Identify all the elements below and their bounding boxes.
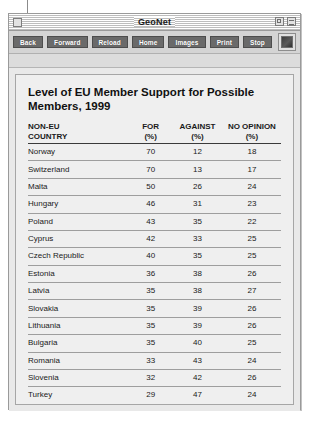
page-content-area: Level of EU Member Support for Possible …: [9, 68, 300, 411]
cell-against: 38: [172, 265, 223, 282]
table-row: Slovenia324226: [28, 369, 281, 386]
cell-for: 46: [129, 196, 172, 213]
browser-toolbar: Back Forward Reload Home Images Print St…: [9, 31, 300, 54]
reload-button[interactable]: Reload: [92, 36, 128, 48]
cell-country: Lithuania: [28, 317, 129, 334]
cell-against: 35: [172, 248, 223, 265]
home-button[interactable]: Home: [132, 36, 165, 48]
cell-for: 35: [129, 335, 172, 352]
cell-for: 29: [129, 387, 172, 404]
cell-no-opinion: 24: [223, 352, 281, 369]
cell-country: Poland: [28, 213, 129, 230]
table-row: Cyprus423325: [28, 230, 281, 247]
browser-logo-glyph: [281, 36, 293, 48]
cell-for: 43: [129, 213, 172, 230]
cell-for: 33: [129, 352, 172, 369]
cell-against: 33: [172, 230, 223, 247]
zoom-box-icon[interactable]: [275, 17, 284, 26]
cell-no-opinion: 26: [223, 300, 281, 317]
table-row: Poland433522: [28, 213, 281, 230]
cell-against: 38: [172, 283, 223, 300]
cell-no-opinion: 25: [223, 230, 281, 247]
cell-against: 40: [172, 335, 223, 352]
cell-country: Hungary: [28, 196, 129, 213]
titlebar-right-controls: [275, 17, 296, 26]
forward-button[interactable]: Forward: [47, 36, 87, 48]
cell-country: Bulgaria: [28, 335, 129, 352]
cell-against: 26: [172, 178, 223, 195]
table-row: Bulgaria354025: [28, 335, 281, 352]
cell-country: Slovakia: [28, 300, 129, 317]
cell-for: 50: [129, 178, 172, 195]
cell-no-opinion: 25: [223, 248, 281, 265]
cell-no-opinion: 27: [223, 283, 281, 300]
table-row: Hungary463123: [28, 196, 281, 213]
cell-country: Switzerland: [28, 161, 129, 178]
cell-no-opinion: 24: [223, 387, 281, 404]
cell-against: 39: [172, 300, 223, 317]
page-title: Level of EU Member Support for Possible …: [28, 85, 281, 113]
cell-no-opinion: 26: [223, 265, 281, 282]
table-row: Norway701218: [28, 144, 281, 161]
cell-no-opinion: 17: [223, 161, 281, 178]
cell-against: 47: [172, 387, 223, 404]
column-header-country: NON-EU COUNTRY: [28, 122, 129, 144]
cell-for: 36: [129, 265, 172, 282]
table-row: Czech Republic403525: [28, 248, 281, 265]
window-title-text: GeoNet: [134, 17, 175, 27]
cell-for: 70: [129, 144, 172, 161]
table-row: Estonia363826: [28, 265, 281, 282]
window-title: GeoNet: [9, 14, 300, 30]
cell-country: Slovenia: [28, 369, 129, 386]
cell-against: 43: [172, 352, 223, 369]
cell-country: Estonia: [28, 265, 129, 282]
cell-for: 35: [129, 300, 172, 317]
cell-no-opinion: 23: [223, 196, 281, 213]
cell-country: Czech Republic: [28, 248, 129, 265]
cell-for: 35: [129, 283, 172, 300]
column-header-for: FOR (%): [129, 122, 172, 144]
browser-logo-icon[interactable]: [278, 33, 296, 51]
window-titlebar[interactable]: GeoNet: [9, 14, 300, 31]
cell-no-opinion: 26: [223, 317, 281, 334]
cell-against: 39: [172, 317, 223, 334]
cell-no-opinion: 25: [223, 335, 281, 352]
cell-no-opinion: 22: [223, 213, 281, 230]
table-row: Slovakia353926: [28, 300, 281, 317]
cell-country: Turkey: [28, 387, 129, 404]
table-row: Turkey294724: [28, 387, 281, 404]
table-row: Switzerland701317: [28, 161, 281, 178]
table-header-row: NON-EU COUNTRY FOR (%) AGAINST (%) NO OP…: [28, 122, 281, 144]
images-button[interactable]: Images: [168, 36, 205, 48]
collapse-box-icon[interactable]: [287, 17, 296, 26]
cell-for: 35: [129, 317, 172, 334]
cell-country: Malta: [28, 178, 129, 195]
article-panel: Level of EU Member Support for Possible …: [15, 74, 294, 405]
cell-against: 12: [172, 144, 223, 161]
table-row: Malta502624: [28, 178, 281, 195]
cell-country: Norway: [28, 144, 129, 161]
cell-no-opinion: 18: [223, 144, 281, 161]
cell-against: 31: [172, 196, 223, 213]
print-button[interactable]: Print: [210, 36, 239, 48]
cell-against: 42: [172, 369, 223, 386]
location-bar[interactable]: [9, 54, 300, 68]
back-button[interactable]: Back: [13, 36, 43, 48]
stop-button[interactable]: Stop: [243, 36, 272, 48]
cell-country: Latvia: [28, 283, 129, 300]
cell-against: 13: [172, 161, 223, 178]
table-row: Latvia353827: [28, 283, 281, 300]
cell-against: 35: [172, 213, 223, 230]
table-row: Lithuania353926: [28, 317, 281, 334]
support-table: NON-EU COUNTRY FOR (%) AGAINST (%) NO OP…: [28, 122, 281, 405]
cell-country: Cyprus: [28, 230, 129, 247]
cell-country: Romania: [28, 352, 129, 369]
cell-for: 42: [129, 230, 172, 247]
cell-for: 70: [129, 161, 172, 178]
cell-no-opinion: 24: [223, 178, 281, 195]
table-row: Romania334324: [28, 352, 281, 369]
column-header-no-opinion: NO OPINION (%): [223, 122, 281, 144]
browser-window: GeoNet Back Forward Reload Home Images P…: [8, 13, 301, 410]
column-header-against: AGAINST (%): [172, 122, 223, 144]
cell-for: 40: [129, 248, 172, 265]
